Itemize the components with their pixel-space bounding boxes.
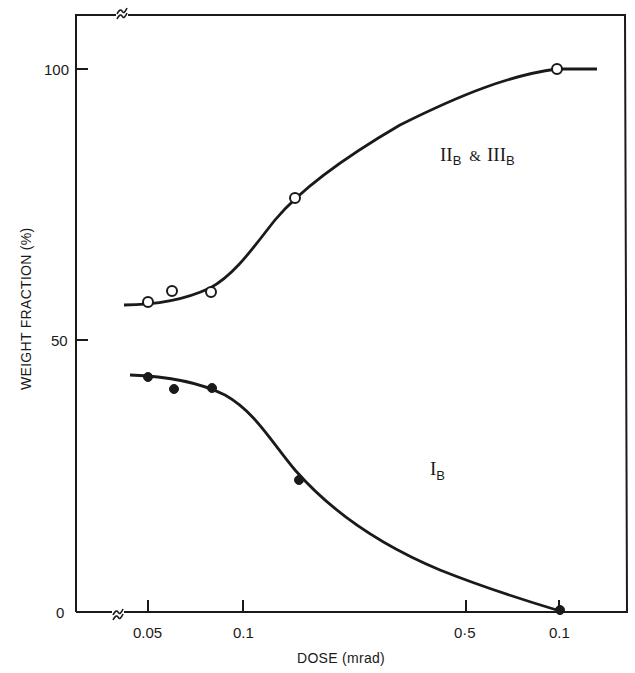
series-markers-iib-iiib [143,64,562,307]
data-point-open [167,286,177,296]
x-tick-label-0-5: 0·5 [454,624,476,641]
x-axis-ticks [148,600,559,612]
y-tick-label-50: 50 [51,332,68,349]
series-label-iib-iiib: IIB&IIIB [440,144,515,168]
data-point-filled [208,384,217,393]
x-axis-break-icon [112,606,124,620]
data-point-open [143,297,153,307]
series-label-ib: IB [430,458,445,483]
data-point-filled [170,385,179,394]
data-point-open [206,287,216,297]
data-point-filled [144,373,153,382]
series-markers-ib [144,373,565,615]
data-point-open [290,193,300,203]
series-curve-iib-iiib [124,69,597,305]
data-point-filled [556,606,565,615]
data-point-open [552,64,562,74]
y-axis-title: WEIGHT FRACTION (%) [18,227,34,390]
x-axis-title: DOSE (mrad) [297,650,385,666]
top-axis-break-icon [116,8,128,21]
y-axis-ticks [76,69,88,340]
y-tick-label-0: 0 [56,604,64,621]
chart-canvas: 100 50 0 0.05 0.1 0·5 0.1 DOSE (mrad) WE… [0,0,635,673]
x-tick-label-0-05: 0.05 [133,624,162,641]
y-tick-label-100: 100 [44,61,69,78]
data-point-filled [295,476,304,485]
x-tick-label-1-0: 0.1 [549,624,570,641]
x-tick-label-0-1: 0.1 [233,624,254,641]
series-curve-ib [130,375,560,611]
